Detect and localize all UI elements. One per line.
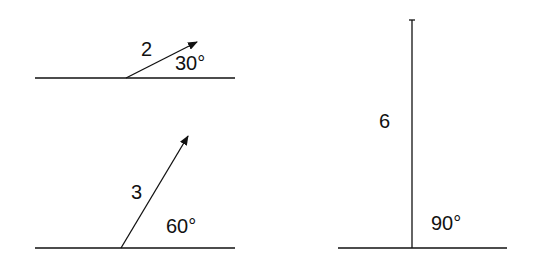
- magnitude-label: 2: [141, 38, 152, 60]
- angle-label: 60°: [166, 215, 196, 237]
- vector-60deg: 3 60°: [35, 136, 235, 248]
- vector-30deg: 2 30°: [35, 38, 235, 78]
- vector-90deg: 6 90°: [338, 20, 507, 248]
- magnitude-label: 3: [131, 181, 142, 203]
- vector-diagram: 2 30° 3 60° 6 90°: [0, 0, 533, 268]
- magnitude-label: 6: [379, 110, 390, 132]
- angle-label: 30°: [175, 52, 205, 74]
- angle-label: 90°: [431, 212, 461, 234]
